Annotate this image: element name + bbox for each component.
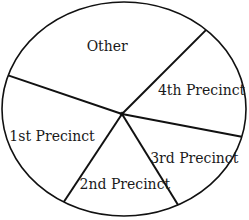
slice-label-2nd-precinct: 2nd Precinct — [80, 176, 171, 192]
slice-label-3rd-precinct: 3rd Precinct — [150, 150, 239, 166]
slice-label-4th-precinct: 4th Precinct — [158, 82, 246, 98]
pie-chart: 4th Precinct3rd Precinct2nd Precinct1st … — [0, 0, 249, 220]
slice-label-1st-precinct: 1st Precinct — [9, 128, 95, 144]
slice-label-other: Other — [87, 38, 128, 54]
